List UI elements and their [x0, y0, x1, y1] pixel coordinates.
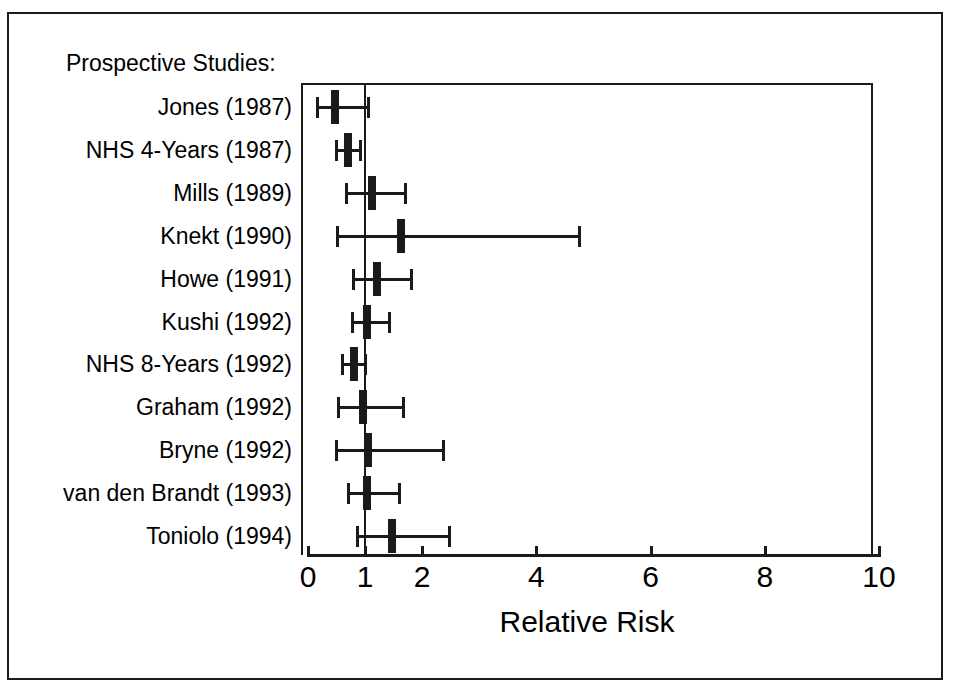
ci-upper-cap: [404, 183, 407, 204]
ci-upper-cap: [578, 226, 581, 247]
ci-lower-cap: [316, 97, 319, 118]
ci-upper-cap: [398, 483, 401, 504]
point-estimate-marker: [368, 176, 376, 210]
forest-row: [0, 476, 954, 510]
confidence-interval-line: [348, 492, 399, 495]
confidence-interval-line: [337, 235, 579, 238]
point-estimate-marker: [388, 519, 396, 553]
point-estimate-marker: [331, 90, 339, 124]
confidence-interval-line: [357, 535, 449, 538]
ci-upper-cap: [448, 526, 451, 547]
x-axis-title: Relative Risk: [301, 605, 873, 639]
confidence-interval-line: [338, 406, 403, 409]
x-tick: [878, 546, 881, 557]
x-tick: [764, 546, 767, 557]
point-estimate-marker: [364, 433, 372, 467]
ci-lower-cap: [352, 269, 355, 290]
ci-upper-cap: [442, 440, 445, 461]
confidence-interval-line: [317, 106, 368, 109]
ci-upper-cap: [388, 312, 391, 333]
forest-row: [0, 133, 954, 167]
x-tick: [421, 546, 424, 557]
ci-lower-cap: [336, 226, 339, 247]
ci-upper-cap: [367, 97, 370, 118]
x-tick-label: 6: [621, 560, 681, 594]
forest-row: [0, 219, 954, 253]
x-tick-label: 2: [392, 560, 452, 594]
forest-row: [0, 305, 954, 339]
x-tick-label: 0: [278, 560, 338, 594]
point-estimate-marker: [344, 133, 352, 167]
forest-row: [0, 347, 954, 381]
point-estimate-marker: [373, 262, 381, 296]
x-tick-label: 10: [849, 560, 909, 594]
ci-upper-cap: [402, 397, 405, 418]
forest-row: [0, 90, 954, 124]
ci-lower-cap: [335, 440, 338, 461]
x-tick-label: 8: [735, 560, 795, 594]
ci-lower-cap: [341, 354, 344, 375]
ci-upper-cap: [410, 269, 413, 290]
forest-plot-figure: Prospective Studies: Jones (1987)NHS 4-Y…: [0, 0, 954, 691]
forest-row: [0, 176, 954, 210]
ci-upper-cap: [364, 354, 367, 375]
ci-lower-cap: [335, 140, 338, 161]
ci-lower-cap: [347, 483, 350, 504]
x-tick: [650, 546, 653, 557]
ci-upper-cap: [359, 140, 362, 161]
forest-row: [0, 262, 954, 296]
x-tick: [535, 546, 538, 557]
point-estimate-marker: [359, 390, 367, 424]
x-tick-label: 4: [506, 560, 566, 594]
ci-lower-cap: [351, 312, 354, 333]
x-tick: [364, 546, 367, 557]
point-estimate-marker: [363, 305, 371, 339]
section-heading: Prospective Studies:: [66, 50, 276, 76]
point-estimate-marker: [397, 219, 405, 253]
ci-lower-cap: [356, 526, 359, 547]
x-tick: [307, 546, 310, 557]
x-axis-line: [308, 554, 879, 557]
ci-lower-cap: [345, 183, 348, 204]
confidence-interval-line: [353, 278, 411, 281]
confidence-interval-line: [336, 449, 443, 452]
forest-row: [0, 390, 954, 424]
point-estimate-marker: [363, 476, 371, 510]
point-estimate-marker: [350, 347, 358, 381]
x-tick-label: 1: [335, 560, 395, 594]
ci-lower-cap: [337, 397, 340, 418]
forest-row: [0, 433, 954, 467]
forest-row: [0, 519, 954, 553]
